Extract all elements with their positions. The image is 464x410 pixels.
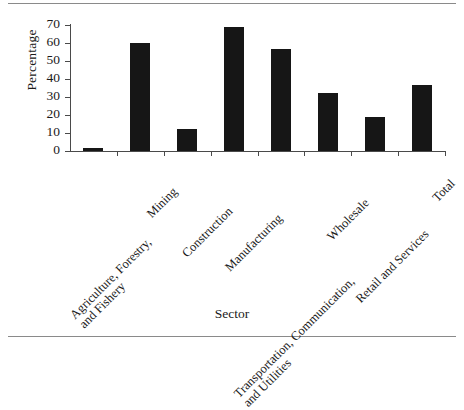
x-axis-category-line: Total <box>430 177 457 204</box>
x-axis-category-label: Wholesale <box>325 197 372 244</box>
x-axis-tick-mark <box>117 151 118 156</box>
y-axis-tick-label: 70 <box>20 16 60 32</box>
bar <box>177 129 197 151</box>
y-axis-tick-label: 30 <box>20 88 60 104</box>
x-axis-category-line: Mining <box>144 185 179 220</box>
x-axis-title: Sector <box>0 306 464 322</box>
x-axis-category-label: Manufacturing <box>222 212 284 274</box>
x-axis-category-line: Manufacturing <box>222 212 284 274</box>
x-axis-category-label: Total <box>430 177 457 204</box>
x-axis-tick-mark <box>445 151 446 156</box>
x-axis-category-line: Retail and Services <box>354 228 432 306</box>
y-axis-tick-label: 40 <box>20 70 60 86</box>
x-axis-category-line: Transportation, Communication, <box>232 275 357 400</box>
x-axis-category-line: Construction <box>180 205 235 260</box>
y-axis-tick-mark <box>65 151 70 152</box>
plot-area <box>70 25 445 151</box>
x-axis-tick-mark <box>258 151 259 156</box>
x-axis-category-label: Transportation, Communication,and Utilit… <box>232 275 367 410</box>
x-axis-category-line: Wholesale <box>325 197 372 244</box>
x-axis-tick-mark <box>398 151 399 156</box>
bar <box>412 85 432 151</box>
bar <box>271 49 291 151</box>
bar <box>318 93 338 151</box>
bar <box>130 43 150 151</box>
bar <box>224 27 244 151</box>
y-axis-tick-label: 50 <box>20 52 60 68</box>
x-axis-category-line: and Utilities <box>242 284 367 409</box>
bottom-divider-rule <box>8 336 456 337</box>
x-axis-category-label: Mining <box>144 185 179 220</box>
x-axis-category-label: Construction <box>180 205 235 260</box>
top-divider-rule <box>8 3 456 4</box>
y-axis-tick-label: 10 <box>20 124 60 140</box>
x-axis-tick-mark <box>211 151 212 156</box>
bar <box>365 117 385 151</box>
x-axis-tick-mark <box>351 151 352 156</box>
y-axis-tick-label: 20 <box>20 106 60 122</box>
x-axis-tick-mark <box>164 151 165 156</box>
bar <box>83 148 103 151</box>
y-axis-tick-label: 0 <box>20 142 60 158</box>
x-axis-tick-mark <box>304 151 305 156</box>
y-axis-tick-label: 60 <box>20 34 60 50</box>
x-axis-category-label: Retail and Services <box>354 228 432 306</box>
